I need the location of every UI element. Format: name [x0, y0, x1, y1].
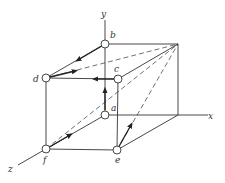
point-a: [101, 111, 109, 119]
label-c: c: [114, 64, 119, 74]
label-d: d: [33, 74, 39, 84]
label-b: b: [110, 30, 116, 40]
vector-d-diag: [46, 71, 75, 78]
cube-edge: [118, 44, 178, 79]
point-f: [42, 145, 50, 153]
point-b: [101, 40, 109, 48]
axis-label-x: x: [208, 111, 213, 121]
point-e: [113, 146, 121, 154]
label-f: f: [42, 155, 48, 165]
cube-edge: [117, 79, 118, 150]
axis-label-y: y: [100, 9, 107, 19]
point-d: [42, 74, 50, 82]
point-c: [114, 75, 122, 83]
label-e: e: [115, 155, 120, 165]
cube-edge: [46, 149, 117, 150]
label-a: a: [111, 103, 116, 113]
vector-b-d: [78, 44, 105, 60]
cube-diagram: y x z a b c d e f: [0, 0, 225, 183]
axis-label-z: z: [7, 164, 13, 174]
dashed-diagonal: [46, 44, 178, 149]
